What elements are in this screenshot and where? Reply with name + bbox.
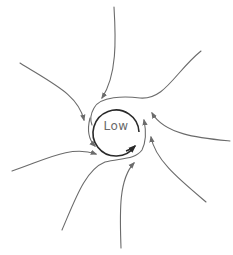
inflow-arrow-upper-left	[20, 63, 84, 120]
inflow-arrow-left	[12, 151, 96, 171]
inflow-arrow-right	[152, 113, 230, 141]
inflow-arrow-lower-left	[62, 120, 145, 230]
inflow-arrow-bottom	[120, 163, 134, 248]
inflow-arrow-top	[102, 7, 115, 98]
inflow-arrow-lower-right	[151, 137, 206, 202]
core-circle	[93, 110, 139, 156]
center-label: Low	[96, 119, 136, 133]
